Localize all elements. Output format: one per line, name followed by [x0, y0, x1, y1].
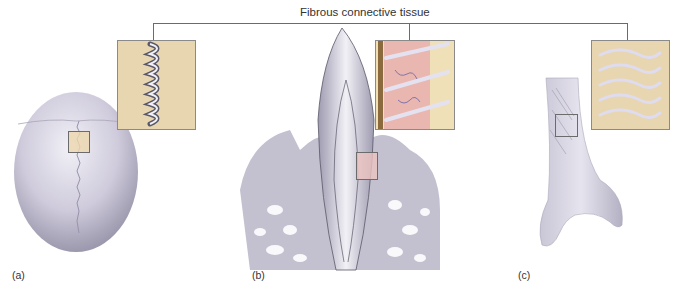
leader-line-c [627, 23, 628, 40]
inset-syndesmosis [591, 40, 670, 130]
marker-box-b [356, 152, 378, 180]
panel-label-c: (c) [518, 269, 530, 281]
leader-line-horizontal [153, 23, 628, 24]
leader-line-b [409, 23, 410, 40]
inset-gomphosis [375, 40, 455, 130]
figure-fibrous-joints: Fibrous connective tissue (a) (b) (c) [0, 0, 683, 296]
panel-label-b: (b) [252, 269, 265, 281]
figure-title: Fibrous connective tissue [300, 6, 430, 18]
marker-box-c [555, 114, 578, 137]
leader-line-a [153, 23, 154, 40]
illustration-layer [0, 0, 683, 296]
marker-box-a [68, 131, 90, 153]
panel-label-a: (a) [12, 269, 25, 281]
inset-suture [117, 40, 196, 130]
